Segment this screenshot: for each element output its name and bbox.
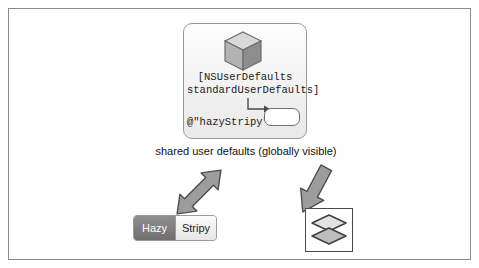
- layers-icon: [309, 212, 349, 248]
- figure-frame: [NSUserDefaults standardUserDefaults] @"…: [8, 8, 471, 260]
- defaults-code-text: [NSUserDefaults standardUserDefaults]: [187, 71, 303, 96]
- segment-stripy[interactable]: Stripy: [175, 216, 216, 240]
- diagram-caption: shared user defaults (globally visible): [135, 145, 357, 158]
- cube-icon: [221, 29, 265, 73]
- defaults-value-box: [264, 108, 300, 126]
- defaults-code-line-1: [NSUserDefaults: [187, 71, 303, 84]
- segmented-control[interactable]: Hazy Stripy: [133, 215, 217, 241]
- defaults-code-line-2: standardUserDefaults]: [187, 84, 303, 97]
- segment-hazy[interactable]: Hazy: [134, 216, 175, 240]
